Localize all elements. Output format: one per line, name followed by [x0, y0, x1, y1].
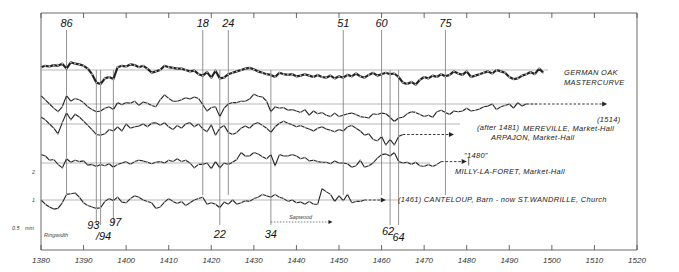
data-point — [151, 202, 152, 203]
dendrochronology-chart: 8693/9497182224345160626475Sapwood GERMA… — [0, 0, 679, 272]
data-point — [398, 117, 399, 118]
data-point — [338, 129, 339, 130]
data-point — [304, 73, 306, 75]
data-point — [40, 116, 41, 117]
data-point — [113, 109, 114, 110]
data-point — [274, 165, 275, 166]
data-point — [181, 128, 182, 129]
data-point — [159, 69, 161, 71]
data-point — [219, 128, 220, 129]
x-tick-label: 1410 — [160, 256, 178, 265]
x-tick-label: 1510 — [586, 256, 604, 265]
data-point — [330, 163, 331, 164]
data-point — [513, 108, 514, 109]
data-point — [74, 63, 76, 65]
data-point — [445, 112, 446, 113]
data-point — [45, 99, 46, 100]
data-point — [453, 110, 454, 111]
data-point — [194, 199, 195, 200]
data-point — [121, 162, 122, 163]
data-point — [300, 158, 301, 159]
data-point — [228, 164, 229, 165]
data-point — [74, 98, 75, 99]
data-point — [194, 126, 195, 127]
data-point — [164, 162, 165, 163]
data-point — [372, 139, 373, 140]
data-point — [428, 164, 429, 165]
data-point — [402, 162, 403, 163]
data-point — [428, 78, 430, 80]
series-label: MILLY-LA-FORET, Market-Hall — [455, 167, 565, 176]
data-point — [244, 68, 246, 70]
data-point — [304, 157, 305, 158]
data-point — [219, 167, 220, 168]
marker-label: /94 — [95, 230, 111, 242]
data-point — [143, 101, 144, 102]
data-point — [66, 194, 67, 195]
data-point — [257, 197, 258, 198]
data-point — [70, 119, 71, 120]
data-point — [49, 160, 50, 161]
data-point — [249, 98, 250, 99]
data-point — [181, 201, 182, 202]
data-point — [257, 96, 258, 97]
data-point — [504, 72, 506, 74]
data-point — [351, 75, 353, 77]
data-point — [181, 99, 182, 100]
data-point — [185, 69, 187, 71]
data-point — [508, 76, 510, 78]
data-point — [57, 111, 58, 112]
data-point — [215, 106, 216, 107]
data-point — [143, 160, 144, 161]
data-point — [300, 201, 301, 202]
data-point — [287, 74, 289, 76]
x-tick-label: 1450 — [330, 256, 348, 265]
data-point — [96, 134, 97, 135]
data-point — [423, 116, 424, 117]
data-point — [270, 111, 271, 112]
data-point — [432, 117, 433, 118]
data-point — [377, 140, 378, 141]
data-point — [309, 160, 310, 161]
data-point — [160, 99, 161, 100]
data-point — [96, 166, 97, 167]
data-point — [66, 112, 67, 113]
data-point — [215, 161, 216, 162]
data-point — [121, 65, 123, 67]
data-point — [245, 155, 246, 156]
data-point — [292, 199, 293, 200]
data-point — [402, 117, 403, 118]
data-point — [542, 72, 544, 74]
data-point — [262, 72, 264, 74]
data-point — [347, 194, 348, 195]
data-point — [138, 105, 139, 106]
data-point — [296, 202, 297, 203]
data-point — [130, 128, 131, 129]
data-point — [117, 126, 118, 127]
series-label: GERMAN OAK — [564, 68, 619, 77]
data-point — [415, 112, 416, 113]
data-point — [279, 123, 280, 124]
data-point — [334, 160, 335, 161]
data-point — [309, 115, 310, 116]
data-point — [83, 160, 84, 161]
data-point — [44, 65, 46, 67]
data-point — [147, 68, 149, 70]
data-point — [172, 67, 174, 69]
data-point — [376, 75, 378, 77]
data-point — [436, 111, 437, 112]
data-point — [91, 164, 92, 165]
series-date-note: "1480" — [464, 151, 488, 160]
data-point — [364, 135, 365, 136]
data-point — [364, 77, 366, 79]
data-point — [491, 73, 493, 75]
data-point — [283, 121, 284, 122]
data-point — [475, 110, 476, 111]
data-point — [87, 164, 88, 165]
data-point — [108, 163, 109, 164]
data-point — [91, 206, 92, 207]
data-point — [104, 108, 105, 109]
data-point — [351, 167, 352, 168]
data-point — [147, 103, 148, 104]
data-point — [423, 166, 424, 167]
